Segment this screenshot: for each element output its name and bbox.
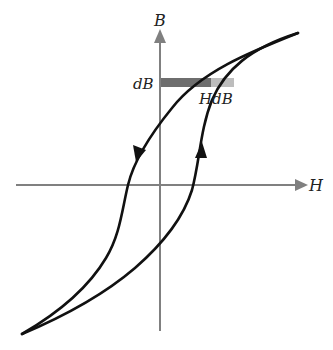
b-axis-label: B (153, 11, 166, 30)
h-axis-label: H (308, 176, 324, 195)
dB-label: dB (133, 75, 154, 93)
HdB-label: HdB (198, 90, 233, 108)
h-axis-arrow-icon (295, 179, 308, 191)
b-axis-arrow-icon (154, 29, 166, 43)
hysteresis-diagram: B H dB HdB (0, 0, 333, 350)
up-arrow-icon (195, 142, 207, 158)
axes (16, 29, 308, 331)
